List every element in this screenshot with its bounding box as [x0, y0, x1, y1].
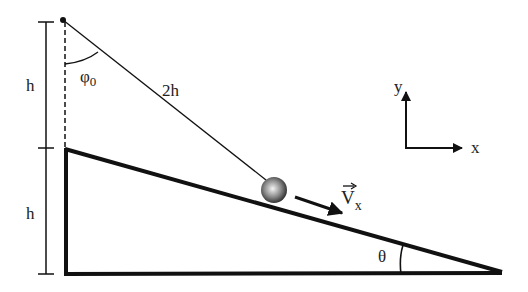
upper-height-label: h	[26, 76, 35, 95]
initial-angle-arc	[65, 52, 98, 64]
incline-pendulum-diagram: h h 2h φ0 θ Vx y x	[0, 0, 528, 292]
incline-angle-label: θ	[378, 247, 386, 266]
lower-height-label: h	[26, 204, 35, 223]
velocity-arrow-icon	[295, 197, 342, 213]
x-axis-label: x	[471, 138, 480, 157]
initial-angle-label: φ0	[80, 67, 96, 89]
incline-triangle	[64, 148, 502, 274]
incline-angle-arc	[400, 245, 403, 274]
height-dimension-bar	[38, 22, 54, 274]
y-axis-label: y	[394, 77, 403, 96]
velocity-label: Vx	[341, 187, 362, 213]
coordinate-axes	[405, 92, 462, 149]
string-length-label: 2h	[162, 81, 180, 100]
ball	[261, 177, 287, 203]
